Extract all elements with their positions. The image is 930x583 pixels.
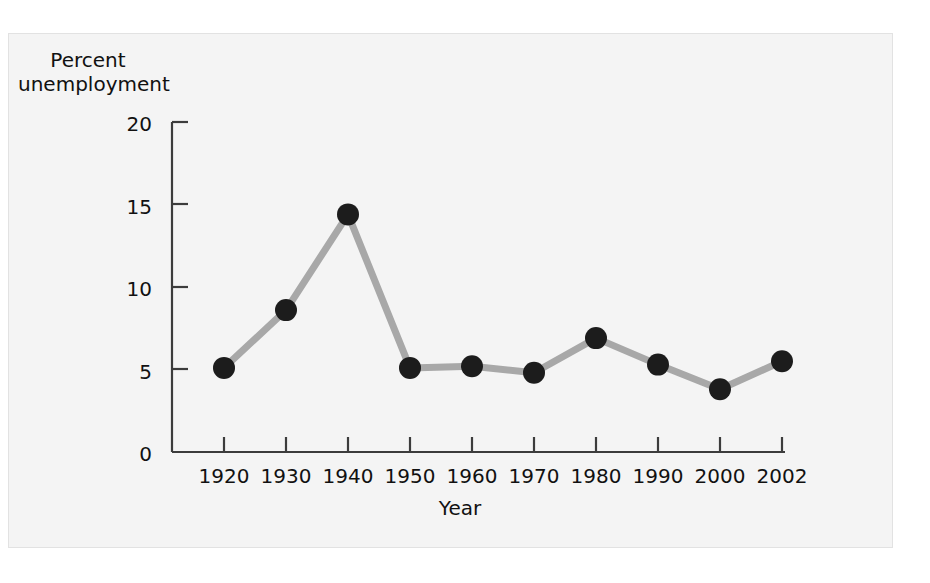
data-point-1920 (213, 357, 235, 379)
data-point-1980 (585, 327, 607, 349)
data-point-2002 (771, 350, 793, 372)
data-point-2000 (709, 378, 731, 400)
data-point-1970 (523, 362, 545, 384)
data-point-1950 (399, 357, 421, 379)
unemployment-line-chart: Percent unemployment 20 15 10 5 0 1920 1… (0, 0, 930, 583)
y-axis-ticks (172, 122, 188, 369)
data-point-1990 (647, 354, 669, 376)
data-point-1960 (461, 355, 483, 377)
data-line (224, 214, 782, 389)
axes (172, 122, 785, 452)
plot-svg (0, 0, 930, 583)
data-point-1940 (337, 203, 359, 225)
data-point-1930 (275, 299, 297, 321)
x-axis-ticks (224, 437, 782, 452)
